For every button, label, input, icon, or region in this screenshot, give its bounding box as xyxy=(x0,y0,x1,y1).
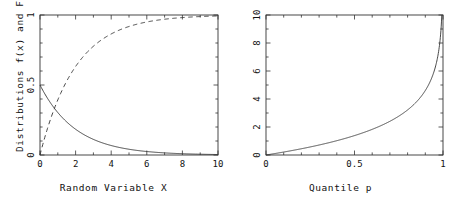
y-tick-label: 6 xyxy=(252,68,262,73)
y-tick-label: 0.5 xyxy=(26,77,36,93)
x-tick-label: 0.5 xyxy=(346,159,362,169)
chart-panel-distributions: Random Variable X Distributions f(x) and… xyxy=(0,0,227,205)
x-tick-label: 6 xyxy=(144,159,149,169)
y-tick-label: 1 xyxy=(26,12,36,17)
y-tick-label: 2 xyxy=(252,124,262,129)
x-tick-label: 1 xyxy=(440,159,445,169)
x-tick-label: 4 xyxy=(108,159,113,169)
y-tick-label: 8 xyxy=(252,40,262,45)
y-axis-title-left: Distributions f(x) and F(x) xyxy=(14,0,25,152)
plot-frame xyxy=(266,15,443,155)
curve-cdf xyxy=(40,16,218,155)
plot-frame xyxy=(40,15,218,155)
x-tick-label: 10 xyxy=(213,159,224,169)
y-tick-label: 10 xyxy=(252,10,262,21)
x-axis-title-right: Quantile p xyxy=(227,182,454,193)
distributions-plot-svg xyxy=(0,0,227,205)
x-axis-title-left: Random Variable X xyxy=(0,182,227,193)
y-tick-label: 0 xyxy=(26,152,36,157)
quantile-plot-svg xyxy=(227,0,454,205)
x-tick-label: 0 xyxy=(37,159,42,169)
figure-container: Random Variable X Distributions f(x) and… xyxy=(0,0,454,205)
x-tick-label: 8 xyxy=(180,159,185,169)
curve-pdf xyxy=(40,85,218,155)
axis-ticks xyxy=(40,15,218,155)
y-tick-label: 4 xyxy=(252,96,262,101)
x-tick-label: 0 xyxy=(263,159,268,169)
y-tick-label: 0 xyxy=(252,152,262,157)
x-tick-label: 2 xyxy=(73,159,78,169)
axis-ticks xyxy=(266,15,443,155)
chart-panel-quantile: Quantile p Quantile function F-1(p) 00.5… xyxy=(227,0,454,205)
curve-quantile xyxy=(266,15,442,155)
